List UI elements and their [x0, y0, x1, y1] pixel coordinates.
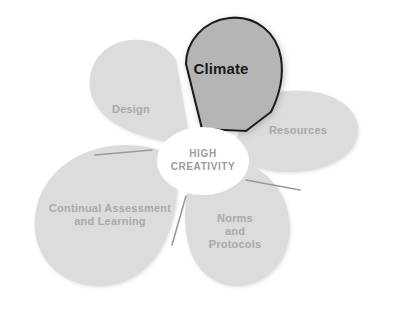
petal-label-design: Design — [96, 103, 166, 116]
petal-shape-design[interactable] — [90, 40, 188, 141]
petal-label-climate: Climate — [176, 60, 266, 77]
petal-label-continual-assessment-and-learning: Continual Assessment and Learning — [42, 202, 178, 228]
center-label-high-creativity: HIGH CREATIVITY — [157, 147, 249, 173]
creativity-flower-diagram: Climate Design Resources Continual Asses… — [0, 0, 393, 309]
petal-label-norms-and-protocols: Norms and Protocols — [200, 212, 270, 251]
petal-label-resources: Resources — [258, 124, 338, 137]
